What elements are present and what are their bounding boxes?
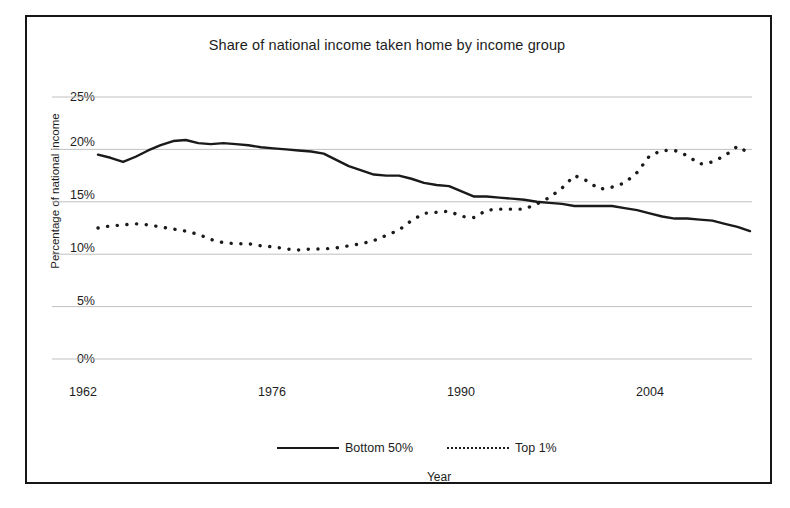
legend-label: Top 1% xyxy=(515,441,557,455)
legend-swatch-dotted-line-icon xyxy=(447,442,509,454)
series-line-0 xyxy=(98,140,750,231)
plot-area xyxy=(27,17,774,486)
legend-entry-top-1: Top 1% xyxy=(447,437,557,459)
legend-swatch-solid-line-icon xyxy=(277,442,339,454)
legend-label: Bottom 50% xyxy=(345,441,413,455)
chart-frame: Share of national income taken home by i… xyxy=(25,15,772,484)
series-line-1 xyxy=(98,146,750,250)
chart-legend: Bottom 50% Top 1% xyxy=(257,437,617,465)
legend-entry-bottom-50: Bottom 50% xyxy=(277,437,413,459)
series-layer xyxy=(98,140,750,250)
